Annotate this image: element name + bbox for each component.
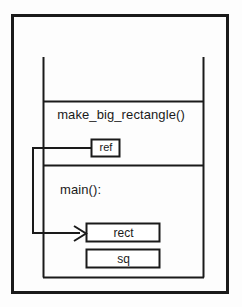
ref-box-label: ref <box>92 142 120 153</box>
main-frame-label: main(): <box>60 183 101 196</box>
diagram-canvas: make_big_rectangle() main(): ref rect sq <box>0 0 242 307</box>
rect-box-label: rect <box>87 227 160 239</box>
sq-box-label: sq <box>87 253 160 265</box>
make-big-rectangle-frame-label: make_big_rectangle() <box>0 108 242 121</box>
